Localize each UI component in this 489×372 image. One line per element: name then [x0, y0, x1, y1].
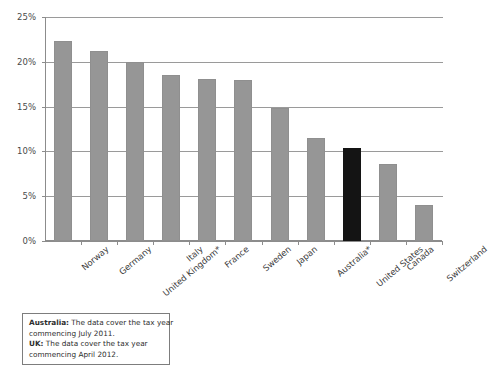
- footnote-uk-text2: commencing April 2012.: [29, 350, 164, 361]
- bar: [162, 75, 180, 241]
- bar-slot: [262, 17, 298, 241]
- y-axis-tick-label: 25%: [0, 12, 36, 22]
- y-axis-tick-label: 15%: [0, 102, 36, 112]
- bar-slot: [406, 17, 442, 241]
- y-axis-tick-label: 10%: [0, 146, 36, 156]
- bar: [343, 148, 361, 241]
- footnote-australia: Australia: The data cover the tax year: [29, 318, 164, 329]
- y-axis-tick-mark: [42, 241, 46, 242]
- x-axis-tick-label: Australia*: [334, 244, 372, 279]
- bar: [379, 164, 397, 241]
- x-axis-tick-label: France: [223, 244, 251, 270]
- bar-slot: [117, 17, 153, 241]
- x-axis-tick-label: Germany: [117, 244, 153, 277]
- bar-slot: [225, 17, 261, 241]
- footnote-australia-text: The data cover the tax year: [69, 318, 173, 327]
- x-axis-labels: NorwayGermanyUnited Kingdom*ItalyFranceS…: [45, 244, 442, 304]
- footnote-uk-label: UK:: [29, 339, 44, 348]
- bar: [307, 138, 325, 241]
- bar-slot: [81, 17, 117, 241]
- bar-slot: [153, 17, 189, 241]
- footnote-australia-text2: commencing July 2011.: [29, 329, 164, 340]
- bar-slot: [370, 17, 406, 241]
- gridline: [46, 241, 443, 242]
- x-axis-tick-label: Norway: [80, 244, 111, 272]
- bar: [198, 79, 216, 241]
- bar-slot: [298, 17, 334, 241]
- footnote-australia-label: Australia:: [29, 318, 69, 327]
- bar: [271, 108, 289, 241]
- bar: [126, 62, 144, 241]
- bar: [234, 80, 252, 241]
- x-axis-tick-label: Sweden: [260, 244, 292, 273]
- y-axis-tick-label: 0%: [0, 236, 36, 246]
- y-axis-tick-label: 5%: [0, 191, 36, 201]
- footnote-uk-text: The data cover the tax year: [44, 339, 148, 348]
- footnote-uk: UK: The data cover the tax year: [29, 339, 164, 350]
- x-axis-tick-label: Switzerland: [445, 244, 489, 284]
- x-axis-tick-label: Japan: [294, 244, 319, 267]
- bar-slot: [334, 17, 370, 241]
- y-axis-tick-label: 20%: [0, 57, 36, 67]
- bar-slot: [45, 17, 81, 241]
- bar-slot: [189, 17, 225, 241]
- x-axis-tick-mark: [442, 241, 443, 245]
- bar: [90, 51, 108, 241]
- bar: [54, 41, 72, 241]
- bar: [415, 205, 433, 241]
- bar-series: [45, 17, 442, 241]
- footnote-box: Australia: The data cover the tax year c…: [22, 313, 170, 365]
